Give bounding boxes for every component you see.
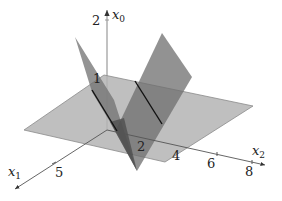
x1-axis	[15, 130, 107, 189]
x2-tick-label-8: 8	[245, 164, 253, 179]
x0-tick-label-1: 1	[93, 71, 101, 86]
x0-tick-label-2: 2	[92, 13, 100, 28]
x1-tick-label-5: 5	[55, 165, 63, 180]
x2-tick-label-4: 4	[172, 148, 180, 163]
x2-tick-label-2: 2	[137, 139, 145, 154]
x1-axis-label: x1	[8, 164, 21, 181]
x2-tick-label-6: 6	[207, 156, 215, 171]
x2-axis-label: x2	[252, 143, 265, 160]
3d-planes-diagram: 2 1 x0 5 x1 2 4 6 8 x2	[0, 0, 282, 201]
x0-axis-label: x0	[112, 7, 125, 24]
